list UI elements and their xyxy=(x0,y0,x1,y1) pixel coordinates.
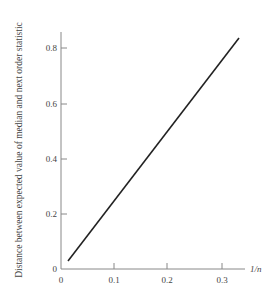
chart: Distance between expected value of media… xyxy=(0,0,267,288)
y-tick-label: 0 xyxy=(53,264,58,274)
x-tick-label: 0.3 xyxy=(216,275,228,285)
data-line xyxy=(68,38,239,261)
y-tick-label: 0.8 xyxy=(46,43,58,53)
x-axis-label: 1/n xyxy=(250,264,262,274)
y-tick-label: 0.4 xyxy=(46,154,58,164)
x-tick-label: 0.2 xyxy=(161,275,172,285)
x-tick-label: 0.1 xyxy=(108,275,119,285)
y-tick-label: 0.6 xyxy=(46,99,58,109)
y-tick-label: 0.2 xyxy=(46,209,57,219)
y-axis-label: Distance between expected value of media… xyxy=(14,22,24,278)
x-ticks: 0 0.1 0.2 0.3 xyxy=(59,263,228,285)
y-ticks: 0.8 0.6 0.4 0.2 0 xyxy=(46,43,67,274)
x-tick-label: 0 xyxy=(59,275,64,285)
